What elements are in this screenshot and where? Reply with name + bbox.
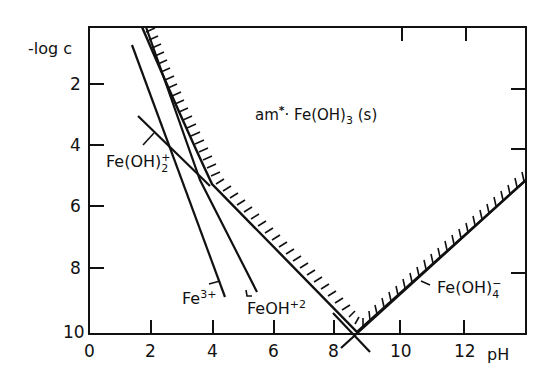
x-tick-4: 4 [207, 343, 218, 360]
y-tick-2: 2 [70, 76, 81, 93]
label-fe3plus: Fe3+ [182, 289, 216, 307]
feoh2plus-line [138, 116, 210, 186]
label-leaders [143, 133, 430, 296]
x-tick-10: 10 [390, 343, 412, 360]
y-tick-6: 6 [70, 198, 81, 215]
y-tick-10: 10 [63, 324, 85, 341]
x-tick-0: 0 [84, 343, 95, 360]
label-feoh-2plus: FeOH+2 [247, 299, 306, 317]
x-tick-12: 12 [454, 343, 476, 360]
label-feoh4minus: Fe(OH)4− [437, 278, 509, 300]
y-tick-8: 8 [70, 260, 81, 277]
x-tick-2: 2 [145, 343, 156, 360]
x-tick-8: 8 [328, 343, 339, 360]
label-feoh2plus: Fe(OH)2+ [106, 152, 178, 174]
y-tick-4: 4 [70, 137, 81, 154]
x-axis-label: pH [487, 347, 509, 363]
x-ticks [151, 27, 466, 334]
y-axis-label: -log c [28, 41, 72, 57]
region-label: am*· Fe(OH)3 (s) [255, 105, 377, 126]
x-tick-6: 6 [268, 343, 279, 360]
